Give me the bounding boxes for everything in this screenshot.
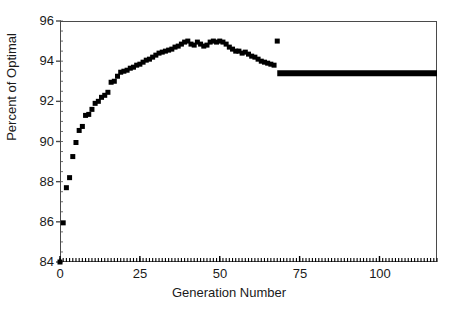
ytick-label: 88 bbox=[20, 175, 54, 188]
xtick-label: 100 bbox=[360, 266, 400, 281]
ytick-label: 96 bbox=[20, 14, 54, 27]
xtick-label: 50 bbox=[200, 266, 240, 281]
y-axis-title: Percent of Optimal bbox=[3, 22, 21, 152]
ytick-4: 88 bbox=[14, 175, 54, 188]
ytick-5: 86 bbox=[14, 215, 54, 228]
y-axis-title-holder: Percent of Optimal bbox=[3, 22, 21, 152]
xtick-1: 25 bbox=[120, 266, 160, 281]
xtick-2: 50 bbox=[200, 266, 240, 281]
xtick-label: 0 bbox=[40, 266, 80, 281]
ytick-label: 92 bbox=[20, 94, 54, 107]
xtick-label: 25 bbox=[120, 266, 160, 281]
xtick-label: 75 bbox=[280, 266, 320, 281]
plot-area bbox=[60, 21, 437, 262]
chart-figure: 96 94 92 90 88 86 84 0 25 50 75 100 Gene… bbox=[0, 0, 458, 311]
xtick-3: 75 bbox=[280, 266, 320, 281]
x-axis-title: Generation Number bbox=[0, 285, 458, 300]
ytick-label: 94 bbox=[20, 54, 54, 67]
ytick-label: 86 bbox=[20, 215, 54, 228]
xtick-4: 100 bbox=[360, 266, 400, 281]
ytick-label: 90 bbox=[20, 135, 54, 148]
xtick-0: 0 bbox=[40, 266, 80, 281]
